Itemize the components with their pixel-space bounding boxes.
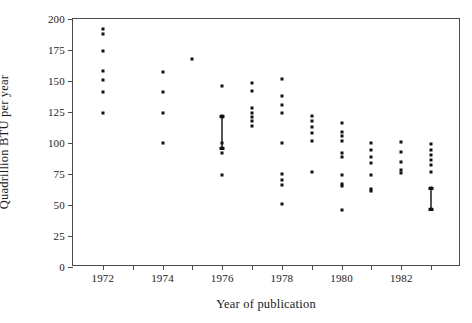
data-point: [340, 185, 343, 188]
data-point: [280, 103, 283, 106]
data-point: [430, 186, 433, 189]
y-tick-mark: [68, 50, 73, 51]
data-point: [280, 112, 283, 115]
data-point: [340, 130, 343, 133]
data-point: [400, 171, 403, 174]
data-point: [221, 142, 224, 145]
data-point: [191, 57, 194, 60]
data-point: [310, 114, 313, 117]
data-point: [161, 142, 164, 145]
x-tick-mark: [163, 265, 164, 270]
data-point: [280, 202, 283, 205]
data-point: [430, 207, 433, 210]
data-point: [161, 71, 164, 74]
y-tick-mark: [68, 143, 73, 144]
y-tick-label: 0: [59, 261, 65, 273]
y-tick-label: 100: [48, 137, 65, 149]
data-point: [340, 122, 343, 125]
data-point: [430, 170, 433, 173]
data-point: [340, 155, 343, 158]
x-tick-mark: [282, 265, 283, 270]
data-point: [400, 150, 403, 153]
data-point: [430, 159, 433, 162]
data-point: [340, 208, 343, 211]
x-tick-mark: [222, 265, 223, 270]
data-point: [370, 174, 373, 177]
data-point: [280, 94, 283, 97]
x-tick-label: 1974: [151, 272, 174, 284]
x-tick-mark: [252, 265, 253, 270]
data-point: [310, 119, 313, 122]
y-tick-mark: [68, 81, 73, 82]
range-bar: [430, 188, 432, 209]
y-tick-label: 75: [54, 168, 65, 180]
data-point: [101, 50, 104, 53]
data-point: [280, 184, 283, 187]
y-tick-mark: [68, 19, 73, 20]
data-point: [101, 70, 104, 73]
x-tick-mark: [312, 265, 313, 270]
y-tick-mark: [68, 174, 73, 175]
data-point: [221, 115, 224, 118]
data-point: [101, 32, 104, 35]
y-tick-mark: [68, 267, 73, 268]
data-point: [430, 143, 433, 146]
x-tick-label: 1976: [211, 272, 234, 284]
x-tick-mark: [342, 265, 343, 270]
plot-area: 0255075100125150175200 19721974197619781…: [72, 18, 460, 266]
data-point: [251, 115, 254, 118]
data-point: [370, 149, 373, 152]
data-point: [161, 91, 164, 94]
data-point: [370, 161, 373, 164]
x-axis-title: Year of publication: [216, 297, 316, 312]
x-tick-mark: [133, 265, 134, 270]
chart-figure: Quadrillion BTU per year Year of publica…: [0, 0, 472, 323]
data-point: [251, 89, 254, 92]
data-point: [340, 151, 343, 154]
data-point: [280, 77, 283, 80]
data-point: [280, 173, 283, 176]
data-point: [221, 84, 224, 87]
y-tick-label: 200: [48, 13, 65, 25]
data-point: [251, 82, 254, 85]
y-tick-label: 150: [48, 75, 65, 87]
data-point: [370, 142, 373, 145]
y-tick-label: 50: [54, 199, 65, 211]
x-tick-mark: [192, 265, 193, 270]
data-point: [340, 134, 343, 137]
data-point: [400, 160, 403, 163]
x-tick-label: 1982: [390, 272, 413, 284]
data-point: [221, 146, 224, 149]
y-tick-mark: [68, 112, 73, 113]
x-tick-mark: [371, 265, 372, 270]
data-point: [430, 154, 433, 157]
x-tick-label: 1972: [91, 272, 114, 284]
data-point: [340, 139, 343, 142]
x-tick-mark: [401, 265, 402, 270]
data-point: [340, 174, 343, 177]
data-point: [251, 112, 254, 115]
x-tick-mark: [431, 265, 432, 270]
y-tick-mark: [68, 236, 73, 237]
data-point: [400, 140, 403, 143]
data-point: [101, 78, 104, 81]
y-axis-title: Quadrillion BTU per year: [0, 75, 12, 209]
data-point: [251, 119, 254, 122]
y-tick-label: 175: [48, 44, 65, 56]
x-tick-mark: [103, 265, 104, 270]
data-point: [430, 164, 433, 167]
data-point: [221, 151, 224, 154]
y-tick-label: 25: [54, 230, 65, 242]
data-point: [221, 174, 224, 177]
data-point: [370, 155, 373, 158]
data-point: [101, 27, 104, 30]
y-tick-label: 125: [48, 106, 65, 118]
x-tick-label: 1980: [330, 272, 353, 284]
data-point: [280, 179, 283, 182]
y-tick-mark: [68, 205, 73, 206]
data-point: [310, 125, 313, 128]
data-point: [251, 107, 254, 110]
x-tick-label: 1978: [271, 272, 294, 284]
data-point: [310, 139, 313, 142]
data-point: [161, 112, 164, 115]
